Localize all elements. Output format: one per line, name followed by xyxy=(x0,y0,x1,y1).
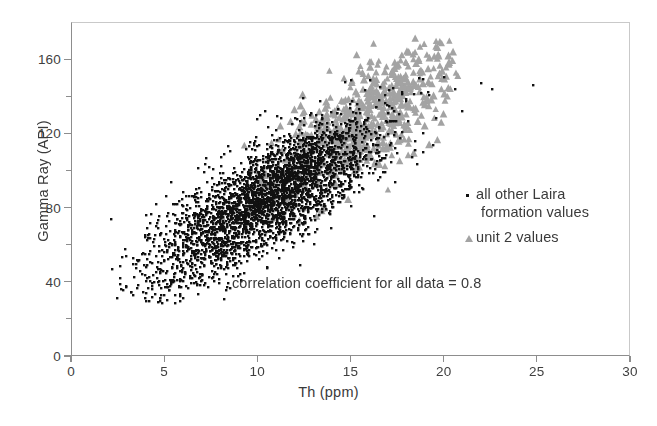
scatter-plot-figure: 051015202530 04080120160 Th (ppm) Gamma … xyxy=(0,0,657,426)
x-tick-label: 0 xyxy=(67,364,75,379)
x-tick-label: 5 xyxy=(160,364,168,379)
y-tick-mark-major xyxy=(64,207,71,208)
y-tick-mark-minor xyxy=(66,318,71,319)
legend-item-unit2: unit 2 values xyxy=(463,229,643,247)
legend-label-unit2: unit 2 values xyxy=(476,229,559,247)
legend-label-laira-line1: all other Laira xyxy=(476,186,565,202)
x-tick-label: 25 xyxy=(529,364,544,379)
x-tick-mark xyxy=(443,356,444,362)
y-tick-mark-major xyxy=(64,355,71,356)
correlation-annotation: correlation coefficient for all data = 0… xyxy=(232,275,481,291)
x-tick-mark xyxy=(350,356,351,362)
x-tick-label: 30 xyxy=(622,364,637,379)
y-tick-label: 0 xyxy=(27,349,61,364)
y-tick-mark-minor xyxy=(66,244,71,245)
y-axis-title: Gamma Ray (API) xyxy=(35,41,51,321)
y-tick-mark-major xyxy=(64,133,71,134)
x-tick-mark xyxy=(70,356,71,362)
triangle-marker-icon xyxy=(463,229,476,246)
x-tick-label: 10 xyxy=(250,364,265,379)
y-tick-mark-minor xyxy=(66,96,71,97)
x-tick-mark xyxy=(257,356,258,362)
x-tick-mark xyxy=(164,356,165,362)
legend: all other Laira formation values unit 2 … xyxy=(463,186,643,255)
dot-marker-icon xyxy=(463,186,476,203)
legend-label-laira: all other Laira formation values xyxy=(476,186,589,221)
x-tick-label: 20 xyxy=(436,364,451,379)
legend-item-laira: all other Laira formation values xyxy=(463,186,643,221)
x-axis-title: Th (ppm) xyxy=(0,384,657,400)
y-tick-mark-minor xyxy=(66,170,71,171)
x-tick-mark xyxy=(536,356,537,362)
y-tick-mark-major xyxy=(64,281,71,282)
y-tick-mark-major xyxy=(64,59,71,60)
x-tick-mark xyxy=(629,356,630,362)
legend-label-laira-line2: formation values xyxy=(476,204,589,222)
x-tick-label: 15 xyxy=(343,364,358,379)
